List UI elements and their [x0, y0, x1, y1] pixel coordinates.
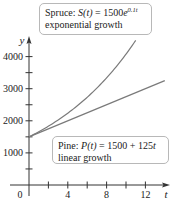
x-tick-label: 8: [104, 189, 109, 200]
pine-formula-line: Pine: P(t) = 1500 + 125t: [58, 140, 163, 152]
y-tick-label: 1000: [3, 147, 23, 158]
x-tick-label: 4: [65, 189, 70, 200]
spruce-description: exponential growth: [45, 19, 146, 31]
y-tick-label: 3000: [3, 83, 23, 94]
pine-annotation: Pine: P(t) = 1500 + 125t linear growth: [52, 136, 169, 164]
y-tick-label: 2000: [3, 115, 23, 126]
pine-description: linear growth: [58, 152, 163, 164]
pine-linear-line: [29, 81, 165, 137]
axes: [10, 36, 170, 196]
pine-function-name: P(t): [81, 140, 97, 151]
y-tick-label: 4000: [3, 51, 23, 62]
origin-label: 0: [18, 189, 23, 200]
spruce-annotation: Spruce: S(t) = 1500e0.1t exponential gro…: [39, 3, 152, 35]
x-axis-label: t: [164, 188, 168, 200]
axis-labels: 481210002000300040000ty: [3, 34, 168, 200]
x-tick-label: 12: [140, 189, 150, 200]
spruce-exponential-curve: [29, 40, 136, 137]
spruce-exponent: 0.1t: [128, 6, 138, 13]
y-axis-label: y: [19, 34, 25, 46]
curves: [29, 40, 165, 137]
figure-caption-clipped: ▬▬▬▬: [0, 204, 60, 210]
spruce-function-name: S(t): [78, 7, 92, 18]
spruce-formula-line: Spruce: S(t) = 1500e0.1t: [45, 7, 146, 19]
